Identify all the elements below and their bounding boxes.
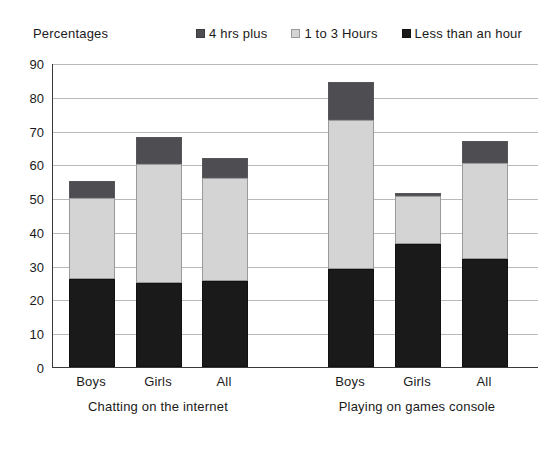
bar-segment-less-than-an-hour <box>462 259 508 367</box>
bar[interactable] <box>462 141 508 367</box>
y-axis-tick-50: 50 <box>4 193 44 206</box>
legend-swatch-1-to-3-hours <box>291 29 300 38</box>
y-axis-tick-0: 0 <box>4 362 44 375</box>
gridline-70 <box>53 132 538 133</box>
legend-swatch-less-than-an-hour <box>402 29 411 38</box>
legend-item-1-to-3-hours: 1 to 3 Hours <box>291 26 377 41</box>
x-axis-label-all-5: All <box>444 374 524 389</box>
bar[interactable] <box>69 181 115 367</box>
stacked-bar-chart: Percentages 4 hrs plus 1 to 3 Hours Less… <box>0 0 560 449</box>
bar-segment-less-than-an-hour <box>328 269 374 367</box>
legend-item-less-than-an-hour: Less than an hour <box>402 26 522 41</box>
legend-label-less-than-an-hour: Less than an hour <box>415 26 522 41</box>
legend-swatch-4-hrs-plus <box>196 29 205 38</box>
bar-segment-1-to-3-hours <box>69 198 115 279</box>
group-label-1: Chatting on the internet <box>48 399 268 414</box>
y-axis-tick-10: 10 <box>4 328 44 341</box>
y-axis-tick-70: 70 <box>4 125 44 138</box>
y-axis-tick-80: 80 <box>4 91 44 104</box>
bar-segment-4-hrs-plus <box>462 141 508 163</box>
bar-segment-less-than-an-hour <box>136 283 182 367</box>
bar-segment-1-to-3-hours <box>395 196 441 243</box>
legend-label-1-to-3-hours: 1 to 3 Hours <box>304 26 377 41</box>
bar-segment-less-than-an-hour <box>395 244 441 367</box>
bar-segment-4-hrs-plus <box>328 82 374 121</box>
x-axis-label-all-2: All <box>184 374 264 389</box>
bar-segment-less-than-an-hour <box>69 279 115 367</box>
bar-segment-4-hrs-plus <box>202 158 248 178</box>
group-label-2: Playing on games console <box>307 399 527 414</box>
legend-label-4-hrs-plus: 4 hrs plus <box>209 26 267 41</box>
gridline-80 <box>53 98 538 99</box>
y-axis-title: Percentages <box>33 26 108 41</box>
y-axis-tick-30: 30 <box>4 260 44 273</box>
bar[interactable] <box>395 193 441 367</box>
bar-segment-1-to-3-hours <box>136 164 182 282</box>
bar[interactable] <box>136 137 182 367</box>
y-axis-tick-20: 20 <box>4 294 44 307</box>
y-axis-tick-40: 40 <box>4 226 44 239</box>
bar[interactable] <box>202 158 248 367</box>
y-axis-tick-90: 90 <box>4 58 44 71</box>
bar-segment-1-to-3-hours <box>462 163 508 259</box>
chart-legend: 4 hrs plus 1 to 3 Hours Less than an hou… <box>196 26 522 41</box>
bar-segment-4-hrs-plus <box>136 137 182 164</box>
chart-header: Percentages 4 hrs plus 1 to 3 Hours Less… <box>0 26 560 46</box>
bar-segment-1-to-3-hours <box>328 120 374 269</box>
bar[interactable] <box>328 82 374 367</box>
bar-segment-1-to-3-hours <box>202 178 248 281</box>
y-axis-tick-60: 60 <box>4 159 44 172</box>
gridline-90 <box>53 64 538 65</box>
legend-item-4-hrs-plus: 4 hrs plus <box>196 26 267 41</box>
bar-segment-less-than-an-hour <box>202 281 248 367</box>
plot-area <box>52 64 538 368</box>
bar-segment-4-hrs-plus <box>69 181 115 198</box>
